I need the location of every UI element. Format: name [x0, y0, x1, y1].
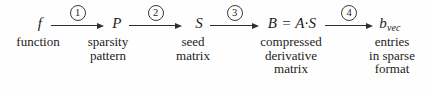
- node-f-symbol: f: [38, 15, 42, 31]
- node-bvec-subscript: vec: [387, 22, 401, 33]
- arrowhead-icon: [252, 23, 259, 29]
- node-p-symbol: P: [112, 15, 121, 31]
- label-line: function: [16, 35, 59, 49]
- node-p-label: sparsity pattern: [88, 35, 128, 62]
- label-line: entries: [369, 35, 415, 49]
- node-bvec-label: entries in sparse format: [369, 35, 415, 76]
- step-1-circled-number: 1: [70, 5, 86, 21]
- step-2-circled-number: 2: [148, 5, 164, 21]
- arrow-step-1: 1: [51, 5, 104, 33]
- arrow-step-3: 3: [210, 5, 259, 33]
- node-f-label: function: [16, 35, 59, 49]
- label-line: compressed: [260, 35, 321, 49]
- arrow-line: [51, 25, 99, 26]
- node-s-label: seed matrix: [176, 35, 210, 62]
- step-3-circled-number: 3: [227, 5, 243, 21]
- label-line: derivative: [260, 49, 321, 63]
- node-p: P: [112, 15, 121, 32]
- arrow-line: [325, 25, 368, 26]
- node-b-equals-as-label: compressed derivative matrix: [260, 35, 321, 76]
- label-line: format: [369, 62, 415, 76]
- label-line: sparsity: [88, 35, 128, 49]
- node-s-symbol: S: [195, 15, 203, 31]
- arrow-step-4: 4: [325, 5, 373, 33]
- arrow-line: [210, 25, 254, 26]
- node-bvec: bvec: [379, 15, 400, 36]
- arrow-line: [129, 25, 177, 26]
- step-4-circled-number: 4: [341, 5, 357, 21]
- node-s: S: [195, 15, 203, 32]
- node-b-equals-as-symbol: B = A·S: [268, 15, 316, 31]
- arrow-step-2: 2: [129, 5, 182, 33]
- node-f: f: [38, 15, 42, 32]
- label-line: pattern: [88, 49, 128, 63]
- label-line: seed: [176, 35, 210, 49]
- node-b-equals-as: B = A·S: [268, 15, 316, 32]
- node-bvec-symbol: b: [379, 15, 387, 31]
- label-line: matrix: [176, 49, 210, 63]
- sparse-derivative-pipeline-diagram: f function 1 P sparsity pattern 2 S seed…: [0, 0, 430, 90]
- label-line: in sparse: [369, 49, 415, 63]
- arrowhead-icon: [175, 23, 182, 29]
- arrowhead-icon: [97, 23, 104, 29]
- label-line: matrix: [260, 62, 321, 76]
- arrowhead-icon: [366, 23, 373, 29]
